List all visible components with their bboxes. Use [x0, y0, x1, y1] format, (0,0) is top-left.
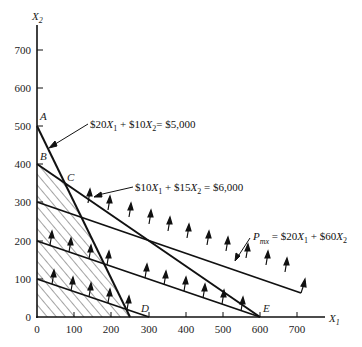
x-tick-600: 600 — [252, 323, 269, 335]
x-tick-400: 400 — [178, 323, 195, 335]
point-label-a: A — [39, 110, 47, 122]
y-tick-300: 300 — [15, 196, 32, 208]
objective-label: Pmx = $20X1 + $60X2 — [252, 230, 347, 246]
y-tick-200: 200 — [15, 235, 32, 247]
point-label-c: C — [67, 171, 75, 183]
constraint-1-label: $20X1 + $10X2= $5,000 — [90, 118, 196, 133]
y-axis-label: X2 — [31, 10, 43, 25]
x-tick-300: 300 — [141, 323, 158, 335]
y-tick-0: 0 — [26, 311, 32, 323]
x-tick-0: 0 — [34, 323, 40, 335]
x-axis-label: X1 — [328, 312, 340, 327]
lp-graph: 0 100 200 300 400 500 600 700 0 100 200 … — [0, 0, 362, 347]
constraint-2-label: $10X1 + $15X2 = $6,000 — [135, 181, 244, 196]
y-tick-700: 700 — [15, 44, 32, 56]
x-tick-700: 700 — [289, 323, 306, 335]
point-label-b: B — [40, 150, 47, 162]
y-tick-600: 600 — [15, 82, 32, 94]
point-label-e: E — [262, 302, 270, 314]
x-tick-200: 200 — [103, 323, 120, 335]
y-tick-500: 500 — [15, 120, 32, 132]
x-tick-100: 100 — [66, 323, 83, 335]
x-tick-500: 500 — [215, 323, 232, 335]
point-label-d: D — [140, 302, 149, 314]
y-tick-400: 400 — [15, 158, 32, 170]
y-tick-100: 100 — [15, 273, 32, 285]
